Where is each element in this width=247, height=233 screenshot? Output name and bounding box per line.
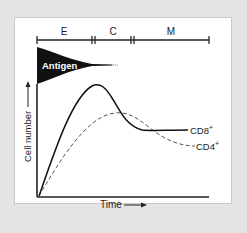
cd8-curve (39, 85, 188, 196)
y-axis-label: Cell number (22, 111, 33, 162)
y-axis-label-group: Cell number (22, 81, 33, 162)
cd8-label: CD8+ (190, 124, 213, 136)
phase-label-e: E (61, 26, 68, 37)
x-axis-label-group: Time (100, 199, 147, 210)
y-arrow-icon (26, 81, 31, 87)
x-axis-label: Time (100, 199, 122, 210)
tcell-response-diagram: E C M Antigen Cell number Time CD8+ CD4+ (0, 0, 247, 233)
cd4-label: CD4+ (196, 140, 219, 152)
phase-label-c: C (109, 26, 116, 37)
cd4-curve (39, 113, 195, 196)
phase-label-m: M (167, 26, 175, 37)
x-arrow-icon (141, 203, 147, 208)
phase-bar (37, 36, 209, 44)
axes (37, 84, 209, 197)
antigen-label: Antigen (42, 60, 78, 71)
